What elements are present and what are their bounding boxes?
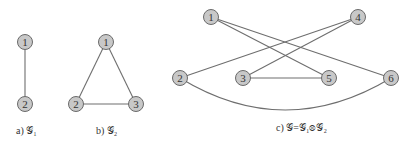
svg-text:3: 3 [240, 72, 246, 84]
edge-g2-1-2 [76, 42, 106, 104]
graph-diagram: 1 2 1 2 3 1 4 2 3 5 6 [0, 0, 405, 147]
svg-text:1: 1 [22, 36, 28, 48]
edge-g-4-2 [180, 17, 358, 78]
svg-text:2: 2 [177, 72, 183, 84]
node-g-5: 5 [322, 71, 337, 86]
svg-text:2: 2 [22, 98, 28, 110]
svg-text:4: 4 [355, 11, 361, 23]
node-g2-2: 2 [69, 97, 84, 112]
node-g-2: 2 [173, 71, 188, 86]
node-g-4: 4 [351, 10, 366, 25]
caption-c: c) 𝒢=𝒢₁⊗𝒢₂ [276, 122, 327, 134]
node-g-6: 6 [384, 71, 399, 86]
edge-g-4-3 [243, 17, 358, 78]
caption-a: a) 𝒢₁ [16, 125, 37, 137]
node-g2-1: 1 [99, 35, 114, 50]
svg-text:5: 5 [326, 72, 332, 84]
svg-text:6: 6 [388, 72, 394, 84]
graph-g2-edges [76, 42, 136, 104]
node-g-1: 1 [204, 10, 219, 25]
node-g2-3: 3 [129, 97, 144, 112]
node-g1-1: 1 [18, 35, 33, 50]
caption-b: b) 𝒢₂ [96, 125, 117, 137]
edge-g2-1-3 [106, 42, 136, 104]
graph-g-edges [180, 17, 391, 110]
svg-text:1: 1 [208, 11, 214, 23]
edge-g-2-6-curved [180, 78, 391, 110]
svg-text:1: 1 [103, 36, 109, 48]
node-g-3: 3 [236, 71, 251, 86]
svg-text:2: 2 [73, 98, 79, 110]
node-g1-2: 2 [18, 97, 33, 112]
svg-text:3: 3 [133, 98, 139, 110]
